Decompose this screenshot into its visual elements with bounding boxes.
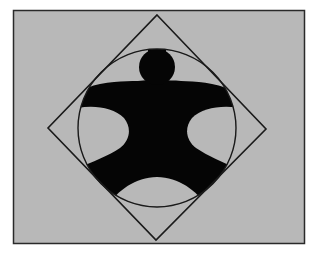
figure-head — [139, 49, 175, 85]
vitruvian-figure-diagram — [0, 0, 320, 263]
